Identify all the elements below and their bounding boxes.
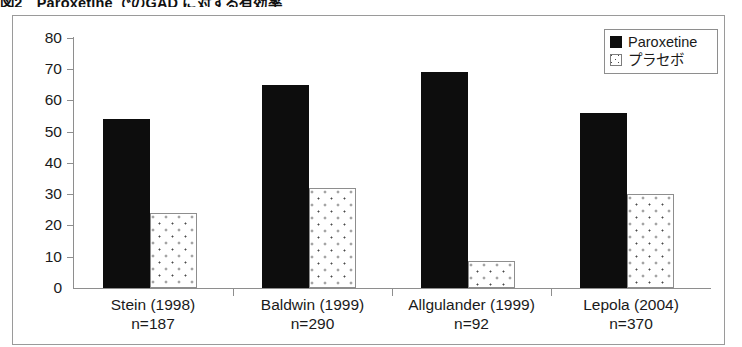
figure-title: 図2 Paroxetine でのGAD に対する有効率 (0, 0, 742, 7)
y-tick-label-20: 20 (22, 217, 62, 233)
category-label-lepola: Lepola (2004) n=370 (551, 295, 711, 333)
bar-paroxetine-allgulander (421, 72, 468, 288)
bar-placebo-lepola (627, 194, 674, 288)
category-label-stein-name: Stein (1998) (111, 296, 195, 313)
y-tick-label-70: 70 (22, 61, 62, 77)
category-label-baldwin-n: n=290 (233, 314, 392, 333)
bar-placebo-stein (150, 213, 197, 288)
legend-label-paroxetine: Paroxetine (628, 34, 697, 50)
bar-paroxetine-stein (103, 119, 150, 288)
category-label-allgulander-name: Allgulander (1999) (408, 296, 535, 313)
legend-swatch-paroxetine-icon (610, 36, 622, 48)
y-tick-label-30: 30 (22, 186, 62, 202)
bar-placebo-allgulander (468, 261, 515, 288)
y-tick-label-10: 10 (22, 249, 62, 265)
y-tick-label-40: 40 (22, 155, 62, 171)
category-label-allgulander: Allgulander (1999) n=92 (392, 295, 551, 333)
category-label-stein-n: n=187 (73, 314, 233, 333)
category-label-stein: Stein (1998) n=187 (73, 295, 233, 333)
y-tick-label-60: 60 (22, 92, 62, 108)
chart-legend: Paroxetine プラセボ (604, 29, 718, 74)
bar-placebo-baldwin (309, 188, 356, 288)
legend-item-paroxetine: Paroxetine (610, 33, 712, 51)
category-label-baldwin: Baldwin (1999) n=290 (233, 295, 392, 333)
plot-area (74, 38, 711, 288)
category-label-lepola-name: Lepola (2004) (583, 296, 679, 313)
y-tick-label-0: 0 (22, 280, 62, 296)
bar-paroxetine-lepola (580, 113, 627, 288)
category-label-allgulander-n: n=92 (392, 314, 551, 333)
y-axis-labels: 80 70 60 50 40 30 20 10 0 (18, 0, 62, 347)
legend-swatch-placebo-icon (610, 54, 622, 66)
bar-paroxetine-baldwin (262, 85, 309, 288)
y-tick-label-50: 50 (22, 124, 62, 140)
category-label-baldwin-name: Baldwin (1999) (261, 296, 364, 313)
category-label-lepola-n: n=370 (551, 314, 711, 333)
legend-label-placebo: プラセボ (628, 52, 684, 68)
legend-item-placebo: プラセボ (610, 51, 712, 69)
y-tick-label-80: 80 (22, 30, 62, 46)
